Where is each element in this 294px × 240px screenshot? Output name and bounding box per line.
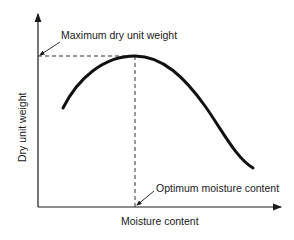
max-dry-unit-weight-label: Maximum dry unit weight — [61, 29, 177, 41]
y-axis-label: Dry unit weight — [16, 93, 28, 162]
compaction-curve — [63, 56, 253, 168]
optimum-moisture-content-label: Optimum moisture content — [156, 182, 279, 194]
max-pointer-arrow — [40, 42, 60, 55]
x-axis-label: Moisture content — [121, 215, 199, 227]
opt-pointer-arrow — [137, 191, 154, 205]
